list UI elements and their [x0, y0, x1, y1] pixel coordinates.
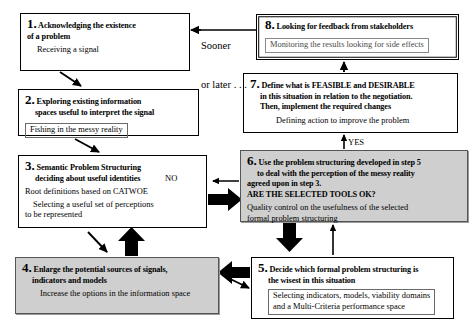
edge-label-sooner-line1: Sooner	[201, 39, 247, 52]
step-3-subtitle-1: Root definitions based on CATWOE	[25, 187, 202, 198]
step-4-heading: 4. Enlarge the potential sources of sign…	[22, 261, 214, 286]
step-2-heading: 2. Exploring existing information spaces…	[25, 93, 194, 118]
step-1-heading-line2: of a problem	[27, 32, 185, 43]
step-2-number: 2.	[25, 92, 35, 107]
step-5-subtitle-2: and a Multi-Criteria performance space	[273, 302, 430, 313]
step-8-heading: 8. Looking for feedback from stakeholder…	[263, 18, 454, 33]
step-6-subtitle-2: formal problem structuring	[247, 214, 463, 225]
arrow-box6-to-box5-thick	[276, 223, 303, 252]
edge-label-sooner-line2: or later . . .	[201, 78, 247, 91]
arrow-box4-to-box5	[222, 275, 249, 288]
step-8-heading-line1: Looking for feedback from stakeholders	[277, 22, 413, 31]
step-3-heading-line1: Semantic Problem Structuring	[37, 163, 141, 172]
step-6-subtitle-1: Quality control on the usefulness of the…	[247, 203, 463, 214]
step-1-heading: 1. Acknowledging the existence of a prob…	[27, 17, 185, 42]
step-7-box[interactable]: 7. Define what is FEASIBLE and DESIRABLE…	[243, 73, 458, 133]
arrow-box4-to-box3-thick	[118, 227, 145, 256]
step-2-box[interactable]: 2. Exploring existing information spaces…	[18, 89, 199, 136]
step-4-heading-line2: indicators and models	[22, 276, 214, 287]
arrow-box3-to-box6-thick	[208, 188, 242, 211]
step-6-heading-line2: to deal with the perception of the messy…	[247, 169, 463, 180]
step-3-subtitle-2: Selecting a useful set of perceptions	[25, 200, 202, 211]
step-8-box[interactable]: 8. Looking for feedback from stakeholder…	[256, 14, 459, 60]
step-7-heading-line2: in this situation in relation to the neg…	[250, 92, 453, 103]
step-7-number: 7.	[250, 76, 260, 91]
step-5-subtitle-1: Selecting indicators, models, viability …	[273, 291, 430, 302]
step-7-heading-line3: Then, implement the required changes	[250, 102, 453, 113]
step-1-heading-line1: Acknowledging the existence	[38, 21, 136, 30]
step-5-number: 5.	[258, 260, 268, 275]
step-5-heading-line2: the wisest in this situation	[258, 276, 449, 287]
step-4-box[interactable]: 4. Enlarge the potential sources of sign…	[15, 257, 219, 314]
step-2-subtitle: Fishing in the messy reality	[25, 123, 128, 138]
step-4-heading-line1: Enlarge the potential sources of signals…	[34, 265, 168, 274]
edge-label-sooner-or-later: Sooner or later . . .	[201, 13, 247, 117]
step-7-heading-line1: Define what is FEASIBLE and DESIRABLE	[262, 81, 415, 90]
step-6-heading-line1: Use the problem structuring developed in…	[259, 158, 421, 167]
step-8-number: 8.	[265, 17, 275, 32]
step-7-subtitle: Defining action to improve the problem	[276, 116, 453, 127]
step-8-subtitle: Monitoring the results looking for side …	[265, 38, 429, 53]
step-5-heading: 5. Decide which formal problem structuri…	[258, 261, 449, 286]
edge-label-no: NO	[165, 173, 177, 184]
step-7-heading: 7. Define what is FEASIBLE and DESIRABLE…	[250, 77, 453, 113]
arrow-box5-to-box4-thick	[218, 261, 250, 284]
step-3-box[interactable]: 3. Semantic Problem Structuring deciding…	[18, 155, 207, 228]
step-5-box[interactable]: 5. Decide which formal problem structuri…	[251, 257, 454, 319]
step-6-question: ARE THE SELECTED TOOLS OK?	[247, 190, 463, 201]
step-6-number: 6.	[247, 153, 257, 168]
step-1-number: 1.	[27, 16, 37, 31]
step-2-heading-line2: spaces useful to interpret the signal	[25, 108, 194, 119]
edge-label-yes: YES	[348, 137, 364, 148]
step-2-heading-line1: Exploring existing information	[37, 97, 142, 106]
step-1-subtitle: Receiving a signal	[37, 45, 185, 56]
step-5-heading-line1: Decide which formal problem structuring …	[270, 265, 419, 274]
step-5-subtitle-group: Selecting indicators, models, viability …	[268, 289, 435, 315]
step-3-subtitle-3: to be represented	[25, 210, 202, 221]
step-3-number: 3.	[25, 158, 35, 173]
arrow-box1-to-box2	[60, 72, 81, 86]
step-4-number: 4.	[22, 260, 32, 275]
step-6-box[interactable]: 6. Use the problem structuring developed…	[240, 150, 468, 222]
arrow-box3-to-box4	[88, 232, 107, 252]
arrow-box2-to-box3	[75, 139, 99, 152]
step-6-heading: 6. Use the problem structuring developed…	[247, 154, 463, 200]
step-6-heading-line3: agreed upon in step 3.	[247, 179, 463, 190]
step-1-box[interactable]: 1. Acknowledging the existence of a prob…	[20, 13, 190, 71]
diagram-canvas: 1. Acknowledging the existence of a prob…	[0, 0, 474, 332]
step-4-subtitle: Increase the options in the information …	[22, 289, 214, 300]
